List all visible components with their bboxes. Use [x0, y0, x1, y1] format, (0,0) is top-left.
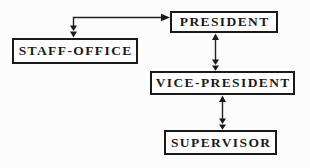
node-supervisor-label: SUPERVISOR — [170, 135, 272, 151]
node-president-label: PRESIDENT — [178, 14, 269, 30]
node-staff-office: STAFF-OFFICE — [12, 38, 138, 64]
arrowhead-down-into-staff-office-1 — [70, 26, 77, 32]
arrowhead-down-into-staff-office-2 — [70, 32, 77, 38]
edge-staff-office-president — [70, 14, 170, 38]
arrowhead-down-into-supervisor-2 — [219, 125, 226, 130]
arrowhead-down-into-vice-president-1 — [212, 60, 219, 66]
node-vice-president: VICE-PRESIDENT — [150, 71, 295, 95]
arrowhead-down-into-vice-president-2 — [212, 66, 219, 71]
arrowhead-right-into-president — [161, 14, 170, 21]
node-supervisor: SUPERVISOR — [164, 130, 277, 155]
node-president: PRESIDENT — [170, 11, 278, 33]
node-staff-office-label: STAFF-OFFICE — [17, 43, 132, 59]
org-chart-diagram: PRESIDENT STAFF-OFFICE VICE-PRESIDENT SU… — [0, 0, 310, 168]
edge-president-vice-president — [212, 34, 219, 71]
edge-vice-president-supervisor — [219, 96, 226, 130]
node-vice-president-label: VICE-PRESIDENT — [154, 75, 291, 91]
arrowhead-down-into-supervisor-1 — [219, 119, 226, 125]
